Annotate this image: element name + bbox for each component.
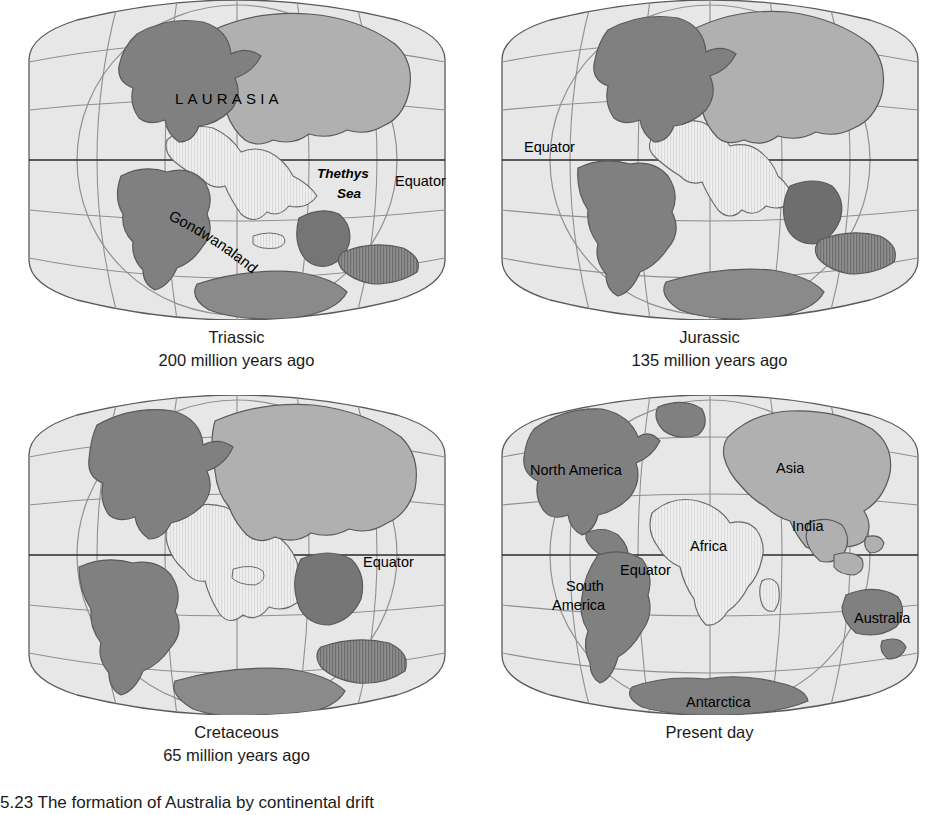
panel-caption-triassic: Triassic 200 million years ago (159, 326, 315, 373)
map-label-north-america: North America (530, 462, 623, 478)
figure-caption: 5.23 The formation of Australia by conti… (0, 793, 946, 815)
panel-title: Present day (665, 721, 753, 744)
map-label-thethys-sea-line1: Thethys (317, 166, 369, 181)
map-label-antarctica: Antarctica (686, 694, 751, 710)
panel-subtitle: 65 million years ago (163, 744, 310, 767)
globe-jurassic: Equator (490, 0, 930, 320)
map-label-south-america-line1: South (566, 578, 604, 594)
panel-title: Jurassic (632, 326, 788, 349)
madagascar-landmass (759, 579, 779, 612)
panel-caption-cretaceous: Cretaceous 65 million years ago (163, 721, 310, 768)
panel-subtitle: 135 million years ago (632, 349, 788, 372)
map-label-thethys-sea-line2: Sea (337, 186, 362, 201)
panel-grid: LAURASIA Thethys Sea Equator Gondwanalan… (0, 0, 946, 790)
panel-present-day: North America Asia India Africa Equator … (473, 395, 946, 790)
map-label-australia: Australia (854, 610, 911, 626)
continental-drift-figure: LAURASIA Thethys Sea Equator Gondwanalan… (0, 0, 946, 815)
map-label-equator: Equator (524, 139, 575, 155)
map-label-laurasia: LAURASIA (175, 90, 283, 107)
globe-present-day: North America Asia India Africa Equator … (490, 395, 930, 715)
panel-subtitle: 200 million years ago (159, 349, 315, 372)
map-label-india: India (792, 518, 824, 534)
panel-cretaceous: Equator Cretaceous 65 million years ago (0, 395, 473, 790)
panel-caption-present-day: Present day (665, 721, 753, 744)
globe-cretaceous: Equator (17, 395, 457, 715)
map-label-equator: Equator (395, 173, 446, 189)
map-label-south-america-line2: America (552, 597, 606, 613)
panel-jurassic: Equator Jurassic 135 million years ago (473, 0, 946, 395)
globe-triassic: LAURASIA Thethys Sea Equator Gondwanalan… (17, 0, 457, 320)
panel-triassic: LAURASIA Thethys Sea Equator Gondwanalan… (0, 0, 473, 395)
tethys-islet (253, 233, 285, 249)
panel-caption-jurassic: Jurassic 135 million years ago (632, 326, 788, 373)
panel-title: Triassic (159, 326, 315, 349)
map-label-africa: Africa (690, 538, 728, 554)
map-label-equator: Equator (363, 554, 414, 570)
map-label-equator: Equator (620, 562, 671, 578)
panel-title: Cretaceous (163, 721, 310, 744)
map-label-asia: Asia (776, 460, 805, 476)
